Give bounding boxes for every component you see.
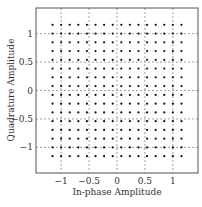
constellation-point xyxy=(163,68,165,70)
constellation-point xyxy=(137,59,139,61)
constellation-point xyxy=(129,103,131,105)
constellation-point xyxy=(60,120,62,122)
constellation-point xyxy=(51,146,53,148)
constellation-point xyxy=(155,94,157,96)
constellation-point xyxy=(129,155,131,157)
constellation-point xyxy=(103,59,105,61)
constellation-point xyxy=(86,59,88,61)
constellation-point xyxy=(163,129,165,131)
constellation-point xyxy=(86,24,88,26)
constellation-point xyxy=(77,94,79,96)
constellation-point xyxy=(146,68,148,70)
constellation-point xyxy=(120,24,122,26)
constellation-point xyxy=(112,76,114,78)
constellation-point xyxy=(51,41,53,43)
x-tick-label: 0 xyxy=(114,176,120,186)
constellation-point xyxy=(155,146,157,148)
constellation-point xyxy=(94,155,96,157)
constellation-point xyxy=(112,120,114,122)
constellation-point xyxy=(120,129,122,131)
constellation-point xyxy=(51,129,53,131)
constellation-point xyxy=(172,103,174,105)
constellation-point xyxy=(69,50,71,52)
constellation-point xyxy=(137,50,139,52)
constellation-point xyxy=(129,111,131,113)
constellation-point xyxy=(146,33,148,35)
constellation-point xyxy=(155,85,157,87)
constellation-point xyxy=(51,33,53,35)
constellation-point xyxy=(146,129,148,131)
constellation-point xyxy=(180,59,182,61)
constellation-point xyxy=(146,59,148,61)
constellation-point xyxy=(103,138,105,140)
constellation-point xyxy=(146,50,148,52)
constellation-point xyxy=(172,24,174,26)
constellation-point xyxy=(86,85,88,87)
constellation-point xyxy=(155,41,157,43)
constellation-point xyxy=(69,24,71,26)
constellation-point xyxy=(86,111,88,113)
y-axis-label: Quadrature Amplitude xyxy=(6,39,16,142)
constellation-point xyxy=(112,50,114,52)
constellation-point xyxy=(120,33,122,35)
constellation-point xyxy=(120,41,122,43)
constellation-point xyxy=(77,24,79,26)
constellation-point xyxy=(129,76,131,78)
constellation-point xyxy=(155,33,157,35)
constellation-point xyxy=(77,103,79,105)
constellation-point xyxy=(51,94,53,96)
constellation-point xyxy=(86,129,88,131)
constellation-point xyxy=(60,24,62,26)
constellation-point xyxy=(180,50,182,52)
constellation-point xyxy=(86,103,88,105)
y-tick-label: 1 xyxy=(27,29,33,39)
constellation-point xyxy=(146,41,148,43)
constellation-point xyxy=(163,155,165,157)
constellation-point xyxy=(77,50,79,52)
constellation-point xyxy=(77,129,79,131)
constellation-point xyxy=(163,50,165,52)
constellation-point xyxy=(86,41,88,43)
constellation-point xyxy=(86,94,88,96)
constellation-point xyxy=(120,155,122,157)
constellation-point xyxy=(112,138,114,140)
constellation-point xyxy=(112,94,114,96)
constellation-point xyxy=(120,59,122,61)
constellation-point xyxy=(120,111,122,113)
constellation-point xyxy=(112,129,114,131)
constellation-point xyxy=(60,138,62,140)
constellation-point xyxy=(163,76,165,78)
constellation-point xyxy=(86,138,88,140)
constellation-point xyxy=(155,68,157,70)
constellation-point xyxy=(60,68,62,70)
constellation-point xyxy=(94,138,96,140)
constellation-point xyxy=(86,146,88,148)
constellation-point xyxy=(60,59,62,61)
constellation-point xyxy=(94,103,96,105)
constellation-point xyxy=(137,146,139,148)
constellation-point xyxy=(155,138,157,140)
constellation-point xyxy=(94,59,96,61)
constellation-point xyxy=(163,138,165,140)
constellation-point xyxy=(129,33,131,35)
constellation-point xyxy=(129,85,131,87)
constellation-point xyxy=(112,111,114,113)
constellation-point xyxy=(112,155,114,157)
constellation-point xyxy=(69,94,71,96)
constellation-point xyxy=(69,103,71,105)
constellation-point xyxy=(172,138,174,140)
constellation-point xyxy=(77,85,79,87)
constellation-point xyxy=(180,41,182,43)
constellation-point xyxy=(103,111,105,113)
constellation-point xyxy=(94,41,96,43)
constellation-point xyxy=(77,41,79,43)
constellation-point xyxy=(112,146,114,148)
constellation-point xyxy=(155,111,157,113)
constellation-point xyxy=(155,129,157,131)
constellation-point xyxy=(172,94,174,96)
constellation-point xyxy=(129,120,131,122)
constellation-point xyxy=(137,41,139,43)
constellation-point xyxy=(146,120,148,122)
x-axis-ticks: −1−0.500.51 xyxy=(54,176,175,186)
constellation-point xyxy=(86,50,88,52)
